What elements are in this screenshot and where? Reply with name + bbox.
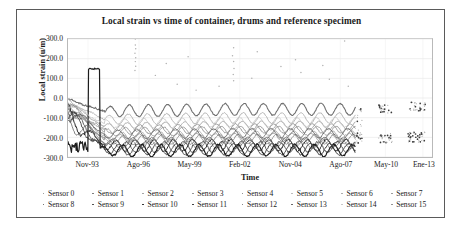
sparse-data-point: [357, 117, 358, 118]
legend-item[interactable]: Sensor 11: [188, 199, 238, 210]
y-tick-label: 300.0: [17, 34, 63, 43]
legend-item[interactable]: Sensor 3: [188, 188, 238, 199]
sparse-data-point: [381, 105, 382, 106]
legend-item[interactable]: Sensor 13: [288, 199, 338, 210]
sparse-data-point: [360, 124, 361, 125]
sparse-data-point: [389, 136, 390, 137]
sparse-data-point: [413, 132, 414, 133]
legend-marker-icon: [290, 191, 295, 196]
outlier-point: [233, 61, 234, 62]
sparse-data-point: [415, 109, 416, 110]
legend-item[interactable]: Sensor 10: [139, 199, 189, 210]
y-tick-label: 100.0: [17, 74, 63, 83]
sparse-data-point: [383, 111, 385, 113]
outlier-point: [295, 59, 296, 60]
legend-label: Sensor 13: [297, 199, 327, 210]
sparse-data-point: [417, 135, 419, 137]
legend-item[interactable]: Sensor 8: [39, 199, 89, 210]
sparse-data-point: [391, 112, 393, 114]
outlier-point: [155, 75, 156, 76]
legend-marker-icon: [141, 202, 146, 207]
legend-item[interactable]: Sensor 9: [89, 199, 139, 210]
y-tick-label: 200.0: [17, 54, 63, 63]
legend-item[interactable]: Sensor 15: [387, 199, 437, 210]
sparse-data-point: [383, 141, 385, 143]
legend-item[interactable]: Sensor 1: [89, 188, 139, 199]
sparse-data-point: [409, 108, 410, 109]
legend-label: Sensor 11: [197, 199, 227, 210]
legend-label: Sensor 3: [197, 188, 223, 199]
sparse-data-point: [356, 135, 358, 137]
legend-item[interactable]: Sensor 6: [338, 188, 388, 199]
sparse-data-point: [416, 103, 417, 104]
legend-marker-icon: [389, 202, 394, 207]
x-tick-label: Ene-13: [413, 160, 435, 169]
legend-label: Sensor 2: [148, 188, 174, 199]
y-tick-label: -100.0: [17, 114, 63, 123]
outlier-point: [134, 52, 135, 53]
legend-marker-icon: [91, 202, 96, 207]
figure-container: Local strain vs time of container, drums…: [16, 9, 445, 218]
y-axis-tick-labels: 300.0200.0100.00.0-100.0-200.0-300.0: [17, 38, 63, 158]
sparse-data-point: [380, 106, 381, 107]
sparse-data-point: [357, 142, 359, 144]
outlier-point: [257, 51, 258, 52]
sparse-data-point: [382, 108, 383, 109]
legend-label: Sensor 4: [247, 188, 273, 199]
sparse-data-point: [361, 134, 362, 135]
sparse-data-point: [359, 135, 360, 136]
legend-item[interactable]: Sensor 7: [387, 188, 437, 199]
outlier-point: [176, 83, 177, 84]
sparse-data-point: [421, 136, 422, 137]
outlier-point: [135, 61, 136, 62]
sparse-data-point: [358, 136, 359, 137]
sparse-data-point: [411, 101, 413, 103]
sparse-data-point: [381, 135, 383, 137]
legend-marker-icon: [240, 202, 245, 207]
sparse-data-point: [390, 137, 391, 138]
sparse-data-point: [359, 109, 360, 110]
legend-item[interactable]: Sensor 12: [238, 199, 288, 210]
legend-item[interactable]: Sensor 0: [39, 188, 89, 199]
sparse-data-point: [389, 139, 390, 140]
legend-label: Sensor 9: [98, 199, 124, 210]
sparse-data-point: [413, 110, 414, 111]
sparse-data-point: [378, 104, 380, 106]
sparse-data-point: [412, 135, 414, 137]
sparse-data-point: [388, 109, 390, 111]
sparse-data-point: [361, 125, 362, 126]
sparse-data-point: [358, 129, 359, 130]
legend-item[interactable]: Sensor 4: [238, 188, 288, 199]
sparse-data-point: [360, 138, 362, 140]
legend-label: Sensor 0: [48, 188, 74, 199]
legend-label: Sensor 6: [347, 188, 373, 199]
legend-marker-icon: [340, 202, 345, 207]
sparse-data-point: [384, 104, 386, 106]
outlier-point: [232, 55, 233, 56]
chart-legend: Sensor 0Sensor 1Sensor 2Sensor 3Sensor 4…: [39, 188, 437, 210]
sparse-data-point: [409, 132, 410, 133]
sparse-data-point: [409, 137, 411, 139]
sparse-data-point: [419, 141, 421, 143]
sparse-data-point: [391, 141, 392, 142]
sparse-data-point: [379, 135, 380, 136]
sparse-data-point: [423, 110, 424, 111]
legend-item[interactable]: Sensor 14: [338, 199, 388, 210]
x-axis-tick-labels: Nov-93Ago-96May-99Feb-02Nov-04Ago-07May-…: [67, 160, 433, 174]
legend-label: Sensor 1: [98, 188, 124, 199]
legend-row-bottom: Sensor 8Sensor 9Sensor 10Sensor 11Sensor…: [39, 199, 437, 210]
sparse-data-point: [410, 110, 411, 111]
sparse-data-point: [420, 136, 421, 137]
y-tick-label: -300.0: [17, 154, 63, 163]
legend-item[interactable]: Sensor 2: [139, 188, 189, 199]
sparse-data-point: [420, 132, 422, 134]
legend-marker-icon: [190, 191, 195, 196]
sparse-data-point: [391, 142, 392, 143]
outlier-point: [233, 74, 234, 75]
sparse-data-point: [387, 112, 388, 113]
legend-item[interactable]: Sensor 5: [288, 188, 338, 199]
outlier-point: [233, 47, 234, 48]
legend-marker-icon: [190, 202, 195, 207]
sparse-data-point: [415, 133, 417, 135]
sparse-data-point: [413, 109, 414, 110]
